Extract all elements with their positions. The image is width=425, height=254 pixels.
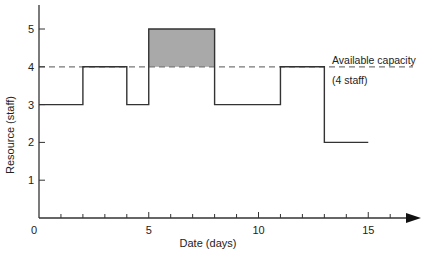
capacity-label-line2: (4 staff)	[332, 74, 367, 86]
x-axis-ticks: 051015	[31, 212, 390, 236]
x-tick-label: 5	[146, 224, 152, 236]
y-tick-label: 4	[28, 61, 34, 73]
x-tick-label: 15	[362, 224, 374, 236]
axes: 051015 12345	[28, 5, 421, 236]
y-tick-label: 1	[28, 174, 34, 186]
x-tick-label: 10	[252, 224, 264, 236]
x-axis-arrow-icon	[406, 213, 421, 223]
shaded-region	[149, 29, 215, 67]
resource-histogram-chart: 051015 12345 Date (days) Resource (staff…	[0, 0, 425, 254]
over-capacity-shaded-area	[149, 29, 215, 67]
capacity-label-line1: Available capacity	[332, 54, 417, 66]
y-axis-label: Resource (staff)	[4, 96, 16, 174]
y-tick-label: 2	[28, 136, 34, 148]
y-tick-label: 5	[28, 23, 34, 35]
x-axis-label: Date (days)	[180, 237, 237, 249]
y-axis-ticks: 12345	[28, 23, 45, 186]
x-tick-label: 0	[31, 224, 37, 236]
y-tick-label: 3	[28, 99, 34, 111]
